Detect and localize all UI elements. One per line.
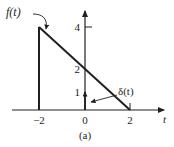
y-tick-label-4: 4 — [75, 21, 81, 33]
impulse-label: δ(t) — [118, 85, 134, 98]
signal-diagram: f(t) δ(t) t −2 0 2 4 2 1 (a) — [0, 0, 174, 147]
x-axis-label: t — [163, 113, 167, 125]
y-axis — [85, 11, 92, 110]
delta-label-pointer-icon — [91, 95, 117, 102]
x-tick-label-2: 2 — [127, 114, 133, 126]
y-tick-label-2: 2 — [75, 63, 81, 75]
x-tick-label-neg2: −2 — [33, 114, 45, 126]
signal-label: f(t) — [6, 5, 21, 19]
figure-caption: (a) — [79, 129, 92, 142]
y-tick-label-1: 1 — [75, 86, 81, 98]
x-tick-label-0: 0 — [82, 114, 88, 126]
